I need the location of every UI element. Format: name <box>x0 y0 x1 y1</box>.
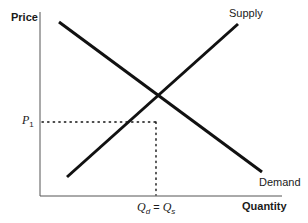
supply-label: Supply <box>229 7 263 19</box>
demand-curve <box>59 22 262 172</box>
equilibrium-quantity-label: Qd = Qs <box>137 200 175 216</box>
x-axis-label: Quantity <box>242 200 287 212</box>
demand-label: Demand <box>259 176 301 188</box>
price-p1-label: P1 <box>22 113 34 129</box>
y-axis-label: Price <box>11 11 38 23</box>
supply-demand-diagram <box>0 0 308 223</box>
